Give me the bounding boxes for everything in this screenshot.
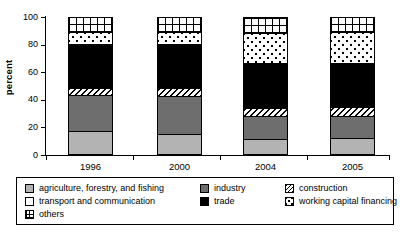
bar-segment-industry	[331, 117, 374, 139]
legend-swatch-icon	[285, 184, 294, 193]
bar-2000	[157, 17, 202, 155]
legend-swatch-icon	[200, 197, 209, 206]
y-tick-mark	[41, 17, 45, 18]
x-tick-mark	[133, 156, 134, 160]
y-tick-label: 20	[12, 123, 38, 132]
x-tick-label: 2005	[323, 162, 383, 172]
legend-label: industry	[214, 183, 246, 193]
legend-swatch-icon	[285, 197, 294, 206]
y-tick-mark	[41, 155, 45, 156]
bar-segment-industry	[244, 117, 287, 140]
bar-segment-working	[244, 34, 287, 64]
legend-swatch-icon	[25, 210, 34, 219]
bar-segment-industry	[158, 97, 201, 135]
legend-label: construction	[299, 183, 348, 193]
y-tick-mark	[41, 45, 45, 46]
legend-item: working capital financing	[285, 196, 397, 206]
legend-label: working capital financing	[299, 196, 397, 206]
chart-legend: agriculture, forestry, and fishingindust…	[16, 177, 394, 225]
x-tick-mark	[389, 156, 390, 160]
bar-segment-agriculture	[331, 139, 374, 154]
bar-segment-trade	[69, 45, 112, 89]
bar-2004	[243, 17, 288, 155]
bar-segment-others	[331, 18, 374, 33]
x-tick-mark	[307, 156, 308, 160]
legend-item: construction	[285, 183, 348, 193]
legend-item: industry	[200, 183, 246, 193]
legend-item: others	[25, 209, 64, 219]
y-tick-mark	[41, 127, 45, 128]
legend-label: trade	[214, 196, 235, 206]
y-tick-label: 40	[12, 95, 38, 104]
stacked-bar-chart-figure: percent 020406080100 1996200020042005 ag…	[0, 0, 410, 233]
legend-label: transport and communication	[39, 196, 155, 206]
bar-segment-construction	[69, 89, 112, 96]
legend-label: others	[39, 209, 64, 219]
x-tick-mark	[220, 156, 221, 160]
legend-item: trade	[200, 196, 235, 206]
bar-segment-agriculture	[244, 140, 287, 154]
bar-segment-others	[69, 18, 112, 33]
x-tick-label: 2000	[150, 162, 210, 172]
x-axis-line	[45, 155, 390, 156]
y-tick-mark	[41, 72, 45, 73]
bar-segment-agriculture	[69, 132, 112, 154]
y-tick-label: 80	[12, 40, 38, 49]
legend-item: agriculture, forestry, and fishing	[25, 183, 164, 193]
plot-area	[46, 17, 388, 155]
x-tick-label: 2004	[236, 162, 296, 172]
bar-segment-trade	[331, 64, 374, 108]
bar-segment-trade	[244, 64, 287, 109]
bar-segment-construction	[158, 89, 201, 97]
bar-segment-trade	[158, 45, 201, 89]
y-tick-label: 0	[12, 151, 38, 160]
y-tick-label: 60	[12, 68, 38, 77]
bar-segment-others	[158, 18, 201, 33]
x-tick-mark	[46, 156, 47, 160]
legend-swatch-icon	[25, 197, 34, 206]
x-tick-label: 1996	[61, 162, 121, 172]
y-tick-mark	[41, 100, 45, 101]
bar-1996	[68, 17, 113, 155]
y-tick-label: 100	[12, 13, 38, 22]
bar-segment-working	[158, 33, 201, 45]
legend-swatch-icon	[25, 184, 34, 193]
bar-segment-industry	[69, 96, 112, 133]
bar-segment-construction	[244, 109, 287, 117]
bar-segment-agriculture	[158, 135, 201, 154]
bar-2005	[330, 17, 375, 155]
legend-swatch-icon	[200, 184, 209, 193]
legend-label: agriculture, forestry, and fishing	[39, 183, 164, 193]
legend-item: transport and communication	[25, 196, 155, 206]
bar-segment-working	[69, 33, 112, 45]
bar-segment-others	[244, 18, 287, 34]
bar-segment-construction	[331, 108, 374, 118]
bar-segment-working	[331, 33, 374, 64]
